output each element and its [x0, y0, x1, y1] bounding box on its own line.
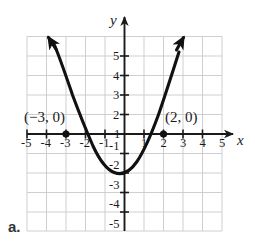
y-tick-label-4: 4	[113, 70, 119, 83]
x-tick-label--2: -2	[80, 137, 90, 150]
figure-label: a.	[8, 219, 21, 234]
y-tick-label--5: -5	[109, 218, 119, 231]
y-tick-label--4: -4	[109, 198, 119, 211]
y-axis-label: y	[110, 13, 117, 28]
x-tick-label--1: -1	[99, 137, 109, 150]
x-tick-label-4: 4	[200, 137, 206, 150]
x-tick-label--5: -5	[21, 137, 31, 150]
x-axis-label: x	[237, 133, 244, 148]
left-root-label: (−3, 0)	[24, 110, 65, 125]
x-tick-label-5: 5	[219, 137, 225, 150]
y-tick-label--3: -3	[109, 179, 119, 192]
right-root-label: (2, 0)	[165, 110, 198, 125]
x-tick-label-2: 2	[161, 137, 167, 150]
y-tick-label--1: -1	[109, 140, 119, 153]
x-tick-label-1: 1	[141, 137, 147, 150]
y-tick-label--2: -2	[109, 159, 119, 172]
y-tick-label-5: 5	[113, 50, 119, 63]
x-tick-label-3: 3	[180, 137, 186, 150]
y-tick-label-3: 3	[113, 89, 119, 102]
x-tick-label--3: -3	[60, 137, 70, 150]
x-tick-label--4: -4	[41, 137, 51, 150]
y-tick-label-2: 2	[113, 109, 119, 122]
